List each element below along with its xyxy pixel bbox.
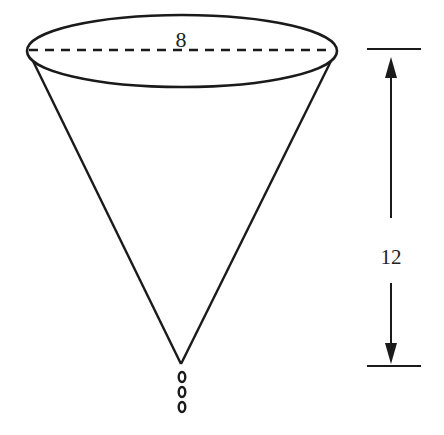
cone-diagram: 8 12 xyxy=(0,0,444,435)
arrow-up-icon xyxy=(385,57,397,78)
drip-1 xyxy=(179,372,186,382)
diameter-label: 8 xyxy=(176,27,187,52)
drip-3 xyxy=(179,402,186,412)
cone-right-side xyxy=(181,61,331,364)
drip-2 xyxy=(179,387,186,397)
arrow-down-icon xyxy=(385,343,397,364)
height-label: 12 xyxy=(381,245,402,269)
cone-left-side xyxy=(33,61,181,364)
